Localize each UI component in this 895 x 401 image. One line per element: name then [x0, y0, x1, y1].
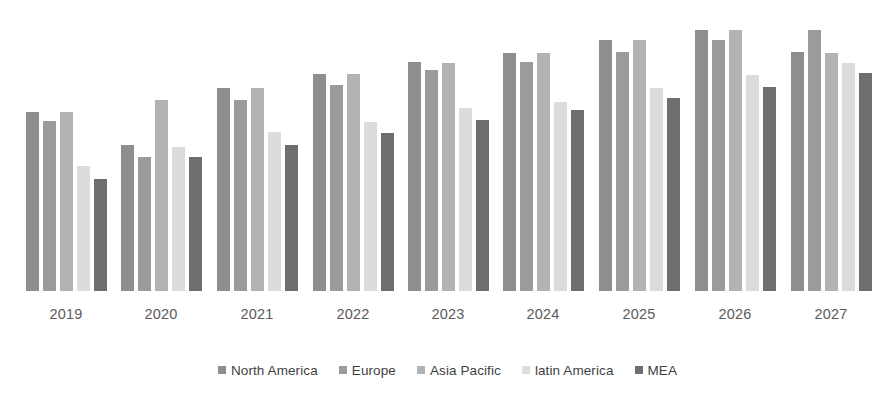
bar: [26, 112, 39, 291]
legend-swatch-icon: [218, 366, 226, 374]
legend-label: Europe: [352, 363, 396, 378]
x-axis-tick-label: 2021: [240, 306, 273, 322]
bar: [616, 52, 629, 291]
bar: [571, 110, 584, 291]
bar: [43, 121, 56, 291]
bar-group: [408, 0, 489, 291]
legend-label: latin America: [535, 363, 614, 378]
bar: [554, 102, 567, 291]
bar: [425, 70, 438, 291]
bar: [842, 63, 855, 291]
bar-group: [599, 0, 680, 291]
bar: [442, 63, 455, 291]
bar: [347, 74, 360, 291]
x-axis-tick-label: 2026: [718, 306, 751, 322]
bar: [763, 87, 776, 291]
x-axis-tick-label: 2022: [336, 306, 369, 322]
legend-item[interactable]: Europe: [339, 363, 396, 378]
plot-area: [0, 0, 895, 291]
bar: [729, 30, 742, 291]
bar: [695, 30, 708, 291]
bar: [234, 100, 247, 291]
bar: [503, 53, 516, 291]
bar: [599, 40, 612, 291]
bar: [251, 88, 264, 291]
bar: [476, 120, 489, 291]
bar: [189, 157, 202, 291]
legend-item[interactable]: latin America: [522, 363, 614, 378]
bar-group: [503, 0, 584, 291]
bar: [364, 122, 377, 291]
bar: [537, 53, 550, 291]
legend-label: MEA: [648, 363, 678, 378]
bar: [268, 132, 281, 291]
bar-group: [217, 0, 298, 291]
x-axis-tick-label: 2025: [622, 306, 655, 322]
bar: [138, 157, 151, 291]
legend-swatch-icon: [635, 366, 643, 374]
bar: [217, 88, 230, 291]
bar-chart: 201920202021202220232024202520262027 Nor…: [0, 0, 895, 401]
bar: [825, 53, 838, 291]
bar: [330, 85, 343, 291]
legend-label: Asia Pacific: [430, 363, 501, 378]
bar: [381, 133, 394, 291]
x-axis-tick-label: 2023: [431, 306, 464, 322]
legend-item[interactable]: Asia Pacific: [417, 363, 501, 378]
legend-swatch-icon: [417, 366, 425, 374]
x-axis-tick-label: 2019: [49, 306, 82, 322]
bar: [791, 52, 804, 291]
bar-group: [695, 0, 776, 291]
bar: [313, 74, 326, 291]
bar: [746, 75, 759, 291]
legend-swatch-icon: [522, 366, 530, 374]
bar: [712, 40, 725, 291]
bar: [155, 100, 168, 291]
bar: [77, 166, 90, 291]
bar: [408, 62, 421, 291]
x-axis-tick-label: 2027: [814, 306, 847, 322]
x-axis-labels: 201920202021202220232024202520262027: [0, 306, 895, 332]
legend-label: North America: [231, 363, 318, 378]
bar-group: [313, 0, 394, 291]
bar-group: [791, 0, 872, 291]
x-axis-tick-label: 2020: [144, 306, 177, 322]
bar: [94, 179, 107, 291]
bar: [285, 145, 298, 291]
bar: [650, 88, 663, 291]
bar: [633, 40, 646, 291]
bar: [667, 98, 680, 291]
bar: [60, 112, 73, 291]
bar: [808, 30, 821, 291]
bar: [172, 147, 185, 291]
chart-legend: North AmericaEuropeAsia Pacificlatin Ame…: [0, 358, 895, 382]
bar-group: [121, 0, 202, 291]
bar-group: [26, 0, 107, 291]
bar: [121, 145, 134, 291]
bar: [459, 108, 472, 291]
x-axis-tick-label: 2024: [526, 306, 559, 322]
bar: [520, 62, 533, 291]
legend-item[interactable]: MEA: [635, 363, 678, 378]
bar: [859, 73, 872, 291]
legend-swatch-icon: [339, 366, 347, 374]
legend-item[interactable]: North America: [218, 363, 318, 378]
